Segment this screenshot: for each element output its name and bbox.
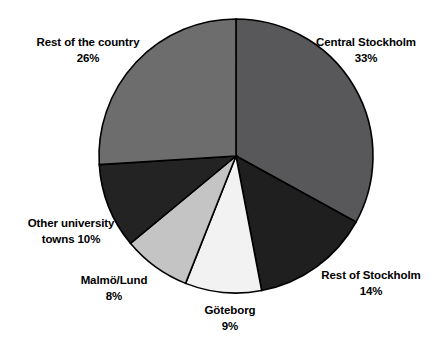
slice-label-malmo-lund: Malmö/Lund 8% xyxy=(54,272,174,305)
slice-label-rest-of-stockholm: Rest of Stockholm 14% xyxy=(306,267,436,300)
slice-label-rest-of-the-country: Rest of the country 26% xyxy=(14,34,162,67)
pie-chart-figure: Central Stockholm 33% Rest of the countr… xyxy=(0,0,438,348)
slice-label-other-university-towns: Other university towns 10% xyxy=(2,215,140,248)
slice-label-goteborg: Göteborg 9% xyxy=(176,302,284,335)
slice-label-central-stockholm: Central Stockholm 33% xyxy=(300,34,432,67)
